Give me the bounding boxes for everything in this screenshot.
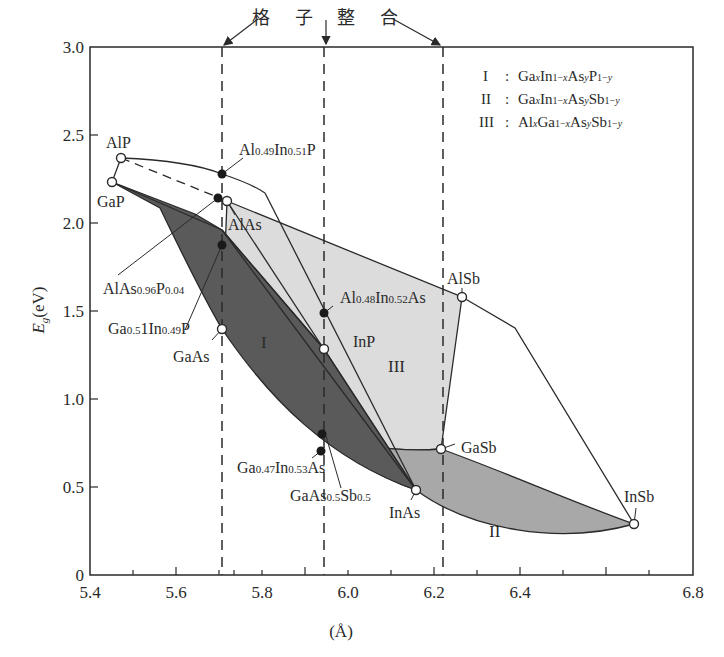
svg-text:5.6: 5.6: [165, 583, 186, 602]
svg-text:1.0: 1.0: [63, 390, 84, 409]
label-InSb: InSb: [624, 488, 654, 505]
point-AlSb: [458, 293, 467, 302]
point-AlInAs: [320, 309, 329, 318]
label-Al0.48In0.52As: Al0.48In0.52As: [340, 289, 426, 306]
svg-text:Eg(eV): Eg(eV): [29, 286, 50, 334]
y-tick-labels: 0 0.5 1.0 1.5 2.0 2.5 3.0: [63, 38, 84, 585]
svg-text:2.5: 2.5: [63, 126, 84, 145]
svg-text:1.5: 1.5: [63, 302, 84, 321]
label-InP: InP: [353, 333, 375, 350]
label-Al0.49In0.51P: Al0.49In0.51P: [239, 141, 316, 158]
y-ticks: [90, 135, 98, 487]
svg-text:5.4: 5.4: [79, 583, 101, 602]
x-ticks: [133, 567, 649, 575]
point-AlP: [117, 154, 126, 163]
lattice-match-annotation: 格 子 整 合: [224, 8, 440, 45]
label-GaSb: GaSb: [461, 439, 497, 456]
legend: I:GaxIn1−xAsyP1−y II:GaxIn1−xAsySb1−y II…: [479, 68, 623, 130]
svg-text:2.0: 2.0: [63, 214, 84, 233]
svg-text:6.4: 6.4: [509, 583, 531, 602]
label-AlAs: AlAs: [228, 216, 262, 233]
point-AlInP: [218, 170, 227, 179]
point-GaSb: [437, 445, 446, 454]
label-AlAs0.96P0.04: AlAs0.96P0.04: [103, 280, 185, 297]
point-GaInAs: [317, 447, 326, 456]
legend-item-I: I:GaxIn1−xAsyP1−y: [483, 68, 613, 84]
label-InAs: InAs: [389, 504, 420, 521]
svg-text:6.2: 6.2: [423, 583, 444, 602]
bandgap-lattice-chart: 0 0.5 1.0 1.5 2.0 2.5 3.0 5.4 5.6 5.8 6.…: [0, 0, 724, 657]
svg-text:6.8: 6.8: [682, 583, 703, 602]
label-Ga0.51In0.49P: Ga0.51In0.49P: [108, 320, 190, 337]
svg-text:格 子 整 合: 格 子 整 合: [252, 8, 408, 28]
point-AlAsP: [214, 194, 223, 203]
svg-text:0.5: 0.5: [63, 478, 84, 497]
label-AlSb: AlSb: [447, 270, 480, 287]
legend-item-III: III:AlxGa1−xAsySb1−y: [479, 114, 623, 130]
point-GaAsSb: [318, 430, 327, 439]
point-InAs: [412, 486, 421, 495]
x-tick-labels: 5.4 5.6 5.8 6.0 6.2 6.4 6.8: [79, 583, 703, 602]
y-axis-label: Eg(eV): [29, 286, 50, 334]
svg-text:3.0: 3.0: [63, 38, 84, 57]
point-AlAs: [223, 197, 232, 206]
region-label-I: I: [261, 333, 267, 352]
svg-text:6.0: 6.0: [337, 583, 358, 602]
point-GaInP: [218, 241, 227, 250]
label-GaAs: GaAs: [173, 348, 209, 365]
label-AlP: AlP: [106, 134, 131, 151]
label-Ga0.47In0.53As: Ga0.47In0.53As: [237, 459, 325, 476]
legend-item-II: II:GaxIn1−xAsySb1−y: [481, 91, 620, 107]
point-InSb: [630, 520, 639, 529]
label-GaP: GaP: [97, 193, 125, 210]
region-label-III: III: [388, 357, 405, 376]
point-InP: [320, 345, 329, 354]
svg-text:5.8: 5.8: [251, 583, 272, 602]
point-GaAs: [218, 325, 227, 334]
x-axis-label: (Å): [329, 622, 353, 641]
point-GaP: [108, 178, 117, 187]
region-label-II: II: [489, 522, 501, 541]
label-GaAs0.5Sb0.5: GaAs0.5Sb0.5: [290, 487, 371, 504]
